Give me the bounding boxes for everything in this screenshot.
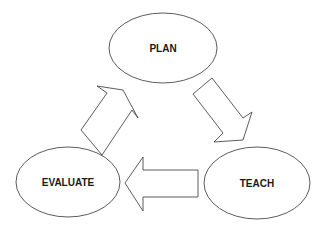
evaluate-label: EVALUATE	[42, 177, 95, 188]
arrow-plan-to-teach	[193, 78, 252, 142]
plan-label: PLAN	[149, 43, 176, 54]
diagram-canvas: PLAN TEACH EVALUATE	[0, 0, 323, 227]
node-teach: TEACH	[204, 147, 310, 219]
arrow-evaluate-to-plan	[81, 86, 138, 155]
cycle-diagram: PLAN TEACH EVALUATE	[0, 0, 323, 227]
node-plan: PLAN	[109, 13, 217, 83]
teach-label: TEACH	[240, 178, 274, 189]
arrow-teach-to-evaluate	[125, 157, 198, 211]
node-evaluate: EVALUATE	[16, 147, 120, 217]
